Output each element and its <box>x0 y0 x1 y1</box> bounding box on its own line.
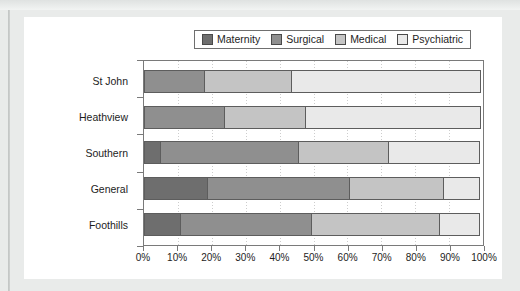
chart-legend: MaternitySurgicalMedicalPsychiatric <box>194 30 471 49</box>
x-axis-tick-label: 20% <box>201 252 221 263</box>
x-axis-tick <box>484 246 485 251</box>
bar-row[interactable] <box>144 213 483 236</box>
legend-item-maternity[interactable]: Maternity <box>202 34 260 45</box>
x-axis-tick <box>314 246 315 251</box>
x-axis-tick-label: 50% <box>303 252 323 263</box>
x-axis-tick-label: 80% <box>406 252 426 263</box>
x-axis-tick-label: 90% <box>440 252 460 263</box>
x-axis-tick-label: 10% <box>167 252 187 263</box>
x-axis-tick <box>382 246 383 251</box>
x-axis-ticks <box>143 246 484 251</box>
bar-row[interactable] <box>144 106 483 129</box>
x-axis-tick-label: 60% <box>338 252 358 263</box>
x-axis-tick <box>348 246 349 251</box>
legend-item-label: Maternity <box>217 34 260 45</box>
x-axis-tick <box>416 246 417 251</box>
x-axis-tick-label: 100% <box>471 252 497 263</box>
bar-segment-medical[interactable] <box>349 177 444 200</box>
bar-segment-surgical[interactable] <box>180 213 312 236</box>
legend-swatch-icon <box>335 34 346 45</box>
y-axis-label-st-john: St John <box>24 70 137 93</box>
bar-segment-psychiatric[interactable] <box>443 177 480 200</box>
x-axis-tick-label: 70% <box>372 252 392 263</box>
chart-card: MaternitySurgicalMedicalPsychiatric St J… <box>24 17 502 279</box>
bar-segment-maternity[interactable] <box>144 213 181 236</box>
bar-segment-medical[interactable] <box>204 70 292 93</box>
x-axis-tick <box>177 246 178 251</box>
bar-segment-psychiatric[interactable] <box>439 213 480 236</box>
screenshot-page: MaternitySurgicalMedicalPsychiatric St J… <box>0 0 520 291</box>
bar-segment-surgical[interactable] <box>144 106 225 129</box>
y-axis-category-labels: St JohnHeathviewSouthernGeneralFoothills <box>24 60 137 246</box>
x-axis-tick <box>143 246 144 251</box>
legend-swatch-icon <box>271 34 282 45</box>
bar-segment-maternity[interactable] <box>144 177 208 200</box>
legend-swatch-icon <box>202 34 213 45</box>
legend-item-psychiatric[interactable]: Psychiatric <box>397 34 463 45</box>
x-axis-tick <box>211 246 212 251</box>
bar-row[interactable] <box>144 177 483 200</box>
bar-segment-psychiatric[interactable] <box>291 70 481 93</box>
x-axis-tick-label: 0% <box>136 252 150 263</box>
x-axis-tick <box>450 246 451 251</box>
legend-item-surgical[interactable]: Surgical <box>271 34 324 45</box>
bar-segment-medical[interactable] <box>224 106 305 129</box>
plot-area <box>143 60 484 246</box>
bar-row[interactable] <box>144 70 483 93</box>
bar-row[interactable] <box>144 141 483 164</box>
legend-item-medical[interactable]: Medical <box>335 34 386 45</box>
legend-item-label: Surgical <box>286 34 324 45</box>
bar-segment-surgical[interactable] <box>160 141 299 164</box>
stacked-bars <box>144 61 483 245</box>
legend-swatch-icon <box>397 34 408 45</box>
y-axis-label-heathview: Heathview <box>24 106 137 129</box>
legend-item-label: Medical <box>350 34 386 45</box>
y-axis-label-foothills: Foothills <box>24 214 137 237</box>
x-axis-tick <box>245 246 246 251</box>
bar-segment-medical[interactable] <box>311 213 440 236</box>
x-axis-tick-label: 30% <box>235 252 255 263</box>
bar-segment-surgical[interactable] <box>144 70 205 93</box>
bar-segment-surgical[interactable] <box>207 177 349 200</box>
x-axis-tick-label: 40% <box>269 252 289 263</box>
x-axis-tick-labels: 0%10%20%30%40%50%60%70%80%90%100% <box>143 252 484 266</box>
x-axis-tick <box>279 246 280 251</box>
bar-segment-psychiatric[interactable] <box>388 141 480 164</box>
y-axis-label-southern: Southern <box>24 142 137 165</box>
legend-item-label: Psychiatric <box>412 34 463 45</box>
y-axis-label-general: General <box>24 178 137 201</box>
bar-segment-psychiatric[interactable] <box>305 106 481 129</box>
bar-segment-medical[interactable] <box>298 141 390 164</box>
bar-segment-maternity[interactable] <box>144 141 161 164</box>
